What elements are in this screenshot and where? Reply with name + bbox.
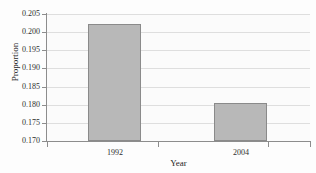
x-axis-title: Year [47,158,310,168]
x-tick-label-2004: 2004 [211,148,271,157]
gridline [47,105,310,106]
x-axis-line [46,141,311,142]
gridline [47,87,310,88]
y-tick [42,32,47,33]
bar-1992 [88,24,141,141]
plot-area [47,14,310,141]
bar-2004 [214,103,267,141]
y-tick [42,50,47,51]
y-tick [42,14,47,15]
x-tick [268,142,269,147]
y-tick-label: 0.185 [0,83,40,91]
y-tick [42,87,47,88]
bar-chart-figure: 0.205 0.200 0.195 0.190 0.185 0.180 0.17… [0,0,316,173]
x-tick [47,142,48,147]
y-tick-label: 0.170 [0,137,40,145]
y-tick-label: 0.200 [0,28,40,36]
chart-title-clipped [0,0,316,3]
y-tick-label: 0.175 [0,119,40,127]
x-tick [158,142,159,147]
y-tick [42,68,47,69]
gridline [47,123,310,124]
gridline [47,32,310,33]
y-tick-label: 0.180 [0,101,40,109]
x-tick [310,142,311,147]
y-tick-label: 0.195 [0,46,40,54]
gridline [47,50,310,51]
y-axis-title: Proportion [10,17,20,107]
y-tick-label: 0.205 [0,10,40,18]
y-tick-label: 0.190 [0,64,40,72]
y-tick [42,123,47,124]
y-tick [42,105,47,106]
gridline [47,14,310,15]
x-tick-label-1992: 1992 [85,148,145,157]
gridline [47,68,310,69]
